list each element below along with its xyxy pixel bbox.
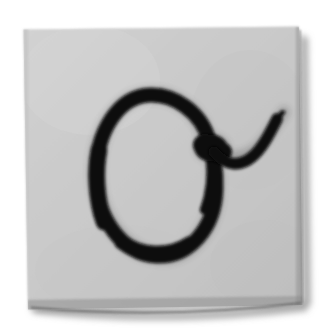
image-canvas: O A light gray square card photographed … [0,0,325,332]
paper-card [0,0,325,332]
paper-card-graphic [0,0,325,332]
